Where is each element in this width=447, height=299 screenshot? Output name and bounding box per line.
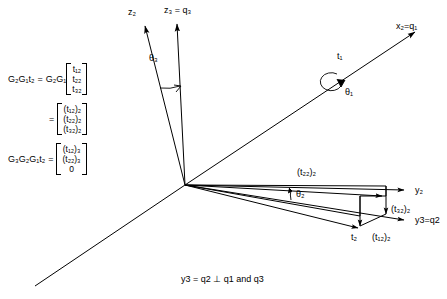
equation-3-lhs: G₃G₂G₁t₂	[8, 154, 45, 164]
equation-2-vector: (t₁₂)₂ (t₂₂)₂ (t₃₂)₂	[57, 102, 87, 136]
angle-label-theta1: θ₁	[345, 88, 353, 97]
angle-label-theta2: θ₂	[296, 190, 305, 199]
equation-1-vector-row-2: t₂₂	[72, 74, 81, 84]
bracket-right	[82, 63, 87, 95]
equation-row-3: G₃G₂G₁t₂ = (t₁₂)₃ (t₂₂)₃ 0	[8, 142, 138, 176]
equation-3-relation: =	[45, 154, 56, 164]
axis-label-y3-q2: y3=q2	[415, 216, 440, 225]
axis-label-z3-q3: z₃ = q₃	[164, 6, 191, 15]
bracket-right	[82, 143, 87, 175]
equation-2-vector-row-3: (t₃₂)₂	[63, 124, 81, 134]
diagram-canvas: G₂G₁t₂ = G₂G₁ t₁₂ t₂₂ t₃₂ = (t₁₂)₂ (t₂₂)…	[0, 0, 447, 299]
equation-row-2: = (t₁₂)₂ (t₂₂)₂ (t₃₂)₂	[46, 102, 138, 136]
angle-label-theta3: θ₃	[149, 54, 158, 63]
equation-2-vector-row-2: (t₂₂)₂	[63, 114, 81, 124]
equation-3-vector-row-1: (t₁₂)₃	[62, 144, 80, 154]
equation-1-relation: =	[35, 74, 46, 84]
vector-line-t2	[185, 185, 358, 228]
axis-line-x2	[185, 32, 415, 185]
bracket-right	[82, 103, 87, 135]
equation-1-prefactor: G₂G₁	[46, 74, 67, 84]
equation-3-vector: (t₁₂)₃ (t₂₂)₃ 0	[56, 142, 86, 176]
axis-label-y2: y₂	[415, 186, 423, 195]
equation-2-relation: =	[46, 114, 57, 124]
equation-3-vector-row-2: (t₂₂)₃	[62, 154, 80, 164]
vector-label-t12-2: (t₁₂)₂	[372, 233, 391, 242]
axis-label-z2: z₂	[128, 8, 136, 17]
angle-arc-theta3	[160, 86, 180, 88]
box-strut-diag	[360, 214, 386, 226]
equation-block: G₂G₁t₂ = G₂G₁ t₁₂ t₂₂ t₃₂ = (t₁₂)₂ (t₂₂)…	[8, 62, 138, 182]
equation-1-lhs: G₂G₁t₂	[8, 74, 35, 84]
equation-2-vector-row-1: (t₁₂)₂	[63, 104, 81, 114]
axis-line-z2	[145, 26, 185, 185]
equation-1-vector-row-1: t₁₂	[72, 64, 81, 74]
equation-3-vector-row-3: 0	[62, 164, 80, 174]
axis-line-y3	[185, 185, 404, 220]
axis-line-z3	[177, 24, 185, 185]
vector-label-t1: t₁	[337, 52, 343, 61]
equation-row-1: G₂G₁t₂ = G₂G₁ t₁₂ t₂₂ t₃₂	[8, 62, 138, 96]
vector-label-t32-2: (t₃₂)₂	[391, 205, 410, 214]
axis-label-x2-q1: x₂=q₁	[396, 22, 417, 31]
equation-1-vector: t₁₂ t₂₂ t₃₂	[66, 62, 87, 96]
equation-1-vector-row-3: t₃₂	[72, 84, 81, 94]
vector-label-t2: t₂	[351, 233, 357, 242]
angle-arc-theta2-tick	[288, 188, 292, 193]
figure-caption: y3 = q2 ⊥ q1 and q3	[181, 274, 264, 284]
axis-line-lower-left	[35, 185, 185, 286]
vector-label-t22-2: (t₂₂)₂	[297, 168, 316, 177]
